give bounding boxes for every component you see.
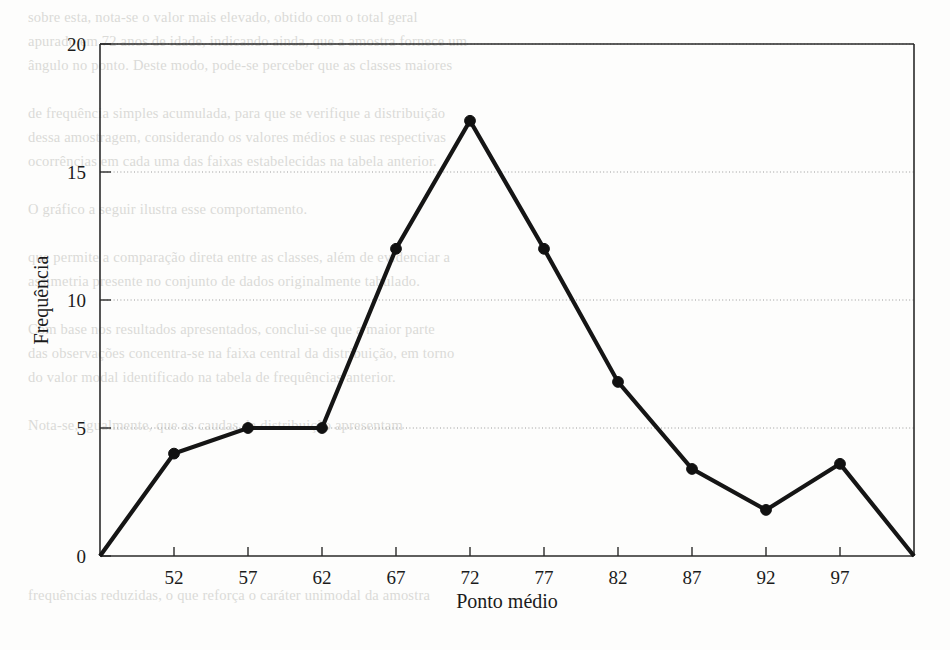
data-point-52 — [169, 448, 180, 459]
data-point-92 — [761, 505, 772, 516]
x-axis-tick-labels: 52576267727782879297 — [165, 567, 850, 588]
x-tick-label-87: 87 — [683, 567, 702, 588]
x-tick-label-57: 57 — [239, 567, 258, 588]
y-axis-ticks — [100, 44, 111, 556]
data-point-97 — [835, 458, 846, 469]
x-tick-label-92: 92 — [757, 567, 776, 588]
x-tick-label-52: 52 — [165, 567, 184, 588]
y-tick-label-15: 15 — [67, 162, 86, 183]
x-tick-label-97: 97 — [831, 567, 850, 588]
data-point-82 — [613, 377, 624, 388]
data-point-87 — [687, 464, 698, 475]
y-axis-title: Frequência — [30, 255, 53, 344]
x-axis-title: Ponto médio — [456, 590, 558, 612]
y-tick-label-20: 20 — [67, 34, 86, 55]
y-tick-label-5: 5 — [77, 418, 87, 439]
x-tick-label-77: 77 — [535, 567, 554, 588]
figure-container: sobre esta, nota-se o valor mais elevado… — [0, 0, 950, 650]
data-point-67 — [391, 243, 402, 254]
x-tick-label-72: 72 — [461, 567, 480, 588]
x-axis-ticks — [174, 547, 840, 556]
data-point-77 — [539, 243, 550, 254]
x-tick-label-67: 67 — [387, 567, 406, 588]
y-axis-tick-labels: 05101520 — [67, 34, 86, 567]
y-tick-label-10: 10 — [67, 290, 86, 311]
y-tick-label-0: 0 — [77, 546, 87, 567]
x-tick-label-82: 82 — [609, 567, 628, 588]
plot-frame — [100, 44, 914, 556]
data-point-72 — [465, 115, 476, 126]
frequency-polygon-chart: 52576267727782879297 05101520 Ponto médi… — [0, 0, 950, 650]
x-tick-label-62: 62 — [313, 567, 332, 588]
data-point-57 — [243, 423, 254, 434]
gridlines — [100, 44, 914, 428]
data-point-62 — [317, 423, 328, 434]
frequency-polygon-line — [100, 121, 914, 556]
data-point-markers — [169, 115, 846, 515]
